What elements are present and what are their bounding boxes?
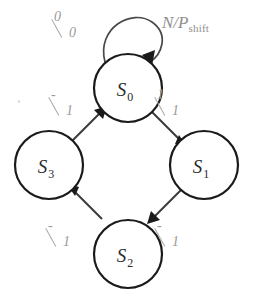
annotation-np-shift: N/Pshift [162,14,209,34]
np-shift-text: N/P [162,13,188,32]
state-s0-subscript: 0 [127,90,133,104]
state-diagram: S0 S1 S2 S3 0 0 [0,0,257,301]
state-s0-name: S [117,79,127,100]
state-node-s2[interactable]: S2 [94,220,162,288]
transition-label-self-loop: 0 0 [54,10,76,43]
s3-s0-denominator: 1 [66,104,73,118]
transition-label-s3-to-s0: - 1 [51,88,73,121]
state-node-s3[interactable]: S3 [15,131,83,199]
state-s2-name: S [117,245,127,266]
state-s3-name: S [38,156,48,177]
np-shift-subscript: shift [188,22,209,34]
state-s3-subscript: 3 [48,167,54,181]
transition-label-s2-to-s3: - 1 [48,219,70,252]
state-diagram-canvas: S0 S1 S2 S3 [0,0,257,301]
state-s1-subscript: 1 [203,167,209,181]
s1-s2-denominator: 1 [172,235,179,249]
state-node-s1[interactable]: S1 [170,131,238,199]
state-s1-name: S [193,156,203,177]
self-loop-denominator: 0 [69,26,76,40]
state-node-s0[interactable]: S0 [94,54,162,122]
transition-label-s1-to-s2: - 1 [157,219,179,252]
s0-s1-denominator: 1 [172,104,179,118]
scan-artifact [18,100,20,103]
s2-s3-denominator: 1 [63,235,70,249]
state-s2-subscript: 2 [127,256,133,270]
transition-label-s0-to-s1: 1 1 [157,88,179,121]
transition-s3-to-s0 [70,106,107,143]
